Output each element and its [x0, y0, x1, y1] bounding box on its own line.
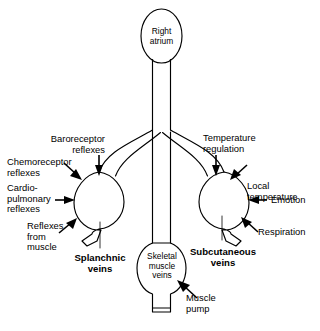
arrow-local-temperature — [230, 165, 247, 180]
arrow-respiration — [241, 217, 258, 232]
label-reflexes-from-muscle: Reflexes from muscle — [27, 221, 82, 253]
label-baroreceptor-reflexes: Baroreceptor reflexes — [15, 134, 105, 155]
splanchnic-branch-inner — [116, 133, 161, 177]
label-subcutaneous-veins: Subcutaneous veins — [183, 246, 263, 268]
label-chemoreceptor-reflexes: Chemoreceptor reflexes — [7, 157, 87, 178]
label-skeletal-muscle-veins: Skeletal muscle veins — [142, 252, 182, 281]
venous-circulation-diagram: Right atrium Baroreceptor reflexes Chemo… — [0, 0, 320, 331]
label-muscle-pump: Muscle pump — [186, 293, 242, 314]
label-respiration: Respiration — [258, 227, 320, 238]
label-splanchnic-veins: Splanchnic veins — [62, 252, 138, 274]
label-emotion: Emotion — [271, 195, 320, 206]
label-temperature-regulation: Temperature regulation — [203, 133, 283, 154]
splanchnic-branch-outer — [99, 130, 153, 172]
subcutaneous-branch-inner — [163, 133, 208, 177]
label-cardiopulmonary-reflexes: Cardio- pulmonary reflexes — [7, 183, 67, 215]
right-atrium-label: Right atrium — [141, 27, 182, 46]
subcutaneous-reservoir-shape — [199, 172, 249, 246]
